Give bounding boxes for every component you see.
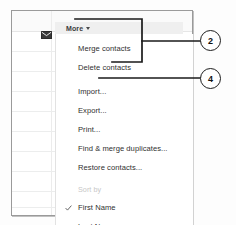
more-dropdown-menu: Merge contactsDelete contactsImport...Ex…	[55, 34, 194, 225]
menu-item-label: Restore contacts...	[78, 163, 142, 172]
menu-item-first-name[interactable]: First Name	[56, 198, 193, 217]
menu-item-print[interactable]: Print...	[56, 120, 193, 139]
menu-item-label: Delete contacts	[78, 63, 131, 72]
menu-item-find-merge-duplicates[interactable]: Find & merge duplicates...	[56, 139, 193, 158]
menu-item-last-name[interactable]: Last Name	[56, 217, 193, 225]
menu-item-delete-contacts[interactable]: Delete contacts	[56, 58, 193, 77]
menu-item-export[interactable]: Export...	[56, 101, 193, 120]
callout-marker-2: 2	[200, 30, 221, 51]
callout-number: 2	[208, 36, 213, 46]
menu-item-label: Export...	[78, 106, 107, 115]
menu-item-merge-contacts[interactable]: Merge contacts	[56, 39, 193, 58]
menu-item-import[interactable]: Import...	[56, 82, 193, 101]
callout-marker-4: 4	[200, 68, 221, 89]
more-button-label: More	[66, 25, 83, 32]
menu-item-label: Sort by	[78, 185, 101, 194]
menu-item-label: Import...	[78, 87, 106, 96]
menu-item-label: Print...	[78, 125, 100, 134]
contacts-window: More Merge contactsDelete contactsImport…	[11, 10, 193, 216]
checkmark-icon	[65, 204, 72, 211]
menu-group-label-sort-by: Sort by	[56, 180, 193, 199]
column-divider	[51, 11, 52, 215]
menu-item-label: First Name	[78, 203, 116, 212]
menu-item-restore-contacts[interactable]: Restore contacts...	[56, 158, 193, 177]
more-button[interactable]: More	[55, 22, 183, 34]
menu-item-label: Last Name	[78, 222, 115, 225]
callout-number: 4	[208, 74, 213, 84]
envelope-icon[interactable]	[41, 25, 52, 33]
screenshot-stage: More Merge contactsDelete contactsImport…	[0, 0, 236, 225]
menu-item-label: Find & merge duplicates...	[78, 144, 168, 153]
chevron-down-icon	[86, 27, 90, 30]
menu-item-label: Merge contacts	[78, 44, 131, 53]
